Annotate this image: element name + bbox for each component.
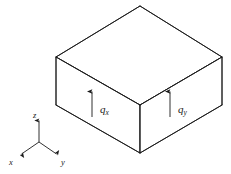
- coordinate-triad: z x y: [8, 110, 65, 167]
- axis-z-label: z: [32, 110, 37, 120]
- box-faces: [56, 6, 222, 153]
- heat-flux-control-volume-figure: qx qy z x y: [0, 0, 231, 174]
- axis-x-line: [22, 142, 40, 154]
- axis-y-label: y: [60, 157, 65, 167]
- axis-x-label: x: [8, 157, 13, 167]
- figure-canvas: qx qy z x y: [0, 0, 231, 174]
- axis-y-line: [39, 142, 57, 154]
